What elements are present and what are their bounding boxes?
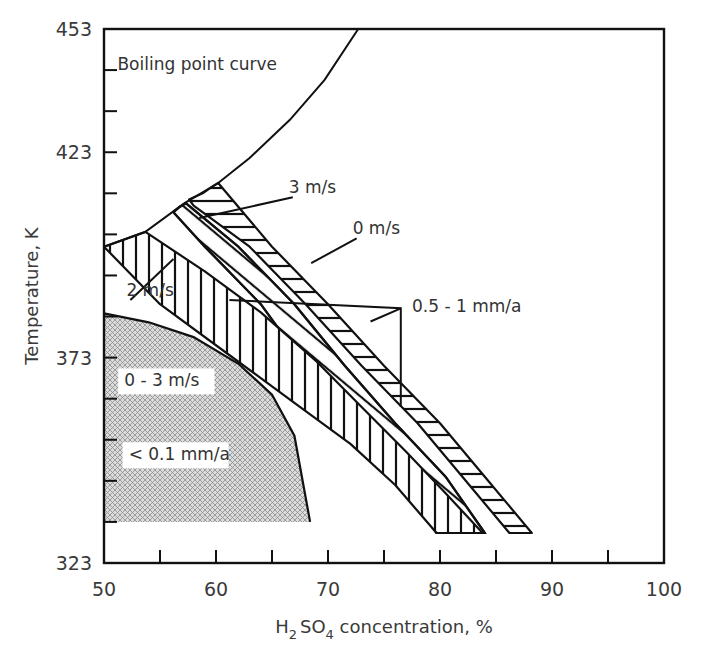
x-tick-label: 70 bbox=[316, 578, 340, 600]
y-tick-label: 423 bbox=[56, 141, 92, 163]
leader-0-m-s bbox=[311, 238, 356, 263]
chart-canvas: 5060708090100323373423453 Boiling point … bbox=[0, 0, 701, 655]
x-tick-label: 50 bbox=[92, 578, 116, 600]
annotation-0-1-mm-a: < 0.1 mm/a bbox=[129, 444, 230, 464]
x-tick-label: 90 bbox=[540, 578, 564, 600]
y-axis-title: Temperature, K bbox=[21, 226, 42, 365]
regions-layer bbox=[104, 183, 532, 533]
annotation-0-3-m-s: 0 - 3 m/s bbox=[124, 370, 199, 390]
x-tick-label: 100 bbox=[646, 578, 682, 600]
x-axis-title: H2SO4 concentration, % bbox=[275, 616, 493, 642]
annotation-0-5-1-mm-a: 0.5 - 1 mm/a bbox=[412, 296, 521, 316]
y-tick-label: 373 bbox=[56, 347, 92, 369]
annotation-0-m-s: 0 m/s bbox=[353, 218, 401, 238]
annotation-3-m-s: 3 m/s bbox=[289, 177, 337, 197]
x-tick-label: 80 bbox=[428, 578, 452, 600]
y-tick-label: 453 bbox=[56, 18, 92, 40]
x-tick-label: 60 bbox=[204, 578, 228, 600]
annotation-boiling-point-curve: Boiling point curve bbox=[117, 54, 277, 74]
annotation-2-m-s: 2 m/s bbox=[126, 280, 174, 300]
bracket-leader bbox=[371, 308, 401, 321]
y-tick-label: 323 bbox=[56, 552, 92, 574]
